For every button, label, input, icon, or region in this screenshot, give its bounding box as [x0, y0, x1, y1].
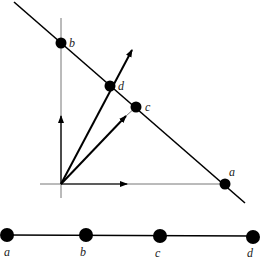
- top-figure: b d c a: [14, 2, 245, 203]
- bottom-point-b: [79, 228, 93, 242]
- bottom-label-d: d: [247, 246, 254, 260]
- label-b: b: [69, 36, 75, 50]
- point-a: [220, 179, 231, 190]
- bottom-label-c: c: [155, 246, 161, 260]
- diagram-canvas: b d c a a b c d: [0, 0, 261, 265]
- label-a: a: [229, 165, 235, 179]
- point-c: [131, 102, 142, 113]
- vector-to-d: [61, 50, 132, 184]
- bottom-label-b: b: [80, 245, 86, 259]
- point-b: [56, 38, 67, 49]
- bottom-point-a: [0, 228, 14, 242]
- point-d: [105, 81, 116, 92]
- label-c: c: [145, 100, 151, 114]
- diagonal-line: [14, 2, 245, 203]
- bottom-figure: a b c d: [0, 228, 260, 260]
- vector-to-c: [61, 116, 126, 184]
- bottom-line: [7, 235, 253, 236]
- bottom-point-d: [246, 230, 260, 244]
- label-d: d: [118, 79, 125, 93]
- bottom-point-c: [153, 229, 167, 243]
- bottom-label-a: a: [4, 245, 10, 259]
